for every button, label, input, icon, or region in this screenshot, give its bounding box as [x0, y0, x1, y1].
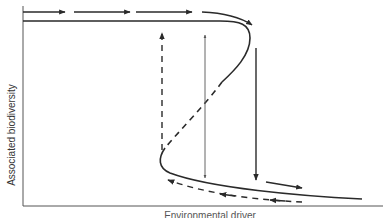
bottom-return-arrows: [168, 180, 302, 202]
bottom-return-arrowhead-2: [270, 200, 285, 201]
y-axis-label: Associated biodiversity: [6, 70, 20, 200]
upper-stable-branch: [23, 21, 250, 82]
unstable-middle-branch: [165, 82, 222, 148]
bottom-forward-arrow: [266, 182, 302, 188]
diagram-canvas: [0, 0, 383, 218]
lower-stable-branch: [160, 148, 362, 199]
top-forward-arrows: [23, 12, 252, 25]
x-axis-label: Environmental driver: [130, 210, 290, 218]
axes: [23, 6, 383, 206]
forward-arrow-4: [202, 12, 252, 25]
bottom-return-arrowhead-1: [220, 194, 235, 196]
